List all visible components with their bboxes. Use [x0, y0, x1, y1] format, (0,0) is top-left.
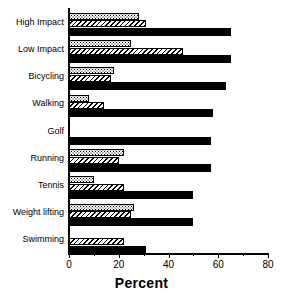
plot-area	[69, 8, 268, 253]
y-axis-label-weight-lifting: Weight lifting	[0, 207, 64, 217]
y-axis-label-bicycling: Bicycling	[0, 71, 64, 81]
x-tick-60	[218, 253, 219, 258]
y-axis-label-walking: Walking	[0, 98, 64, 108]
bar-low-impact-series-1	[69, 40, 131, 47]
x-axis-title: Percent	[0, 275, 283, 291]
bar-running-series-3	[69, 164, 211, 172]
bar-tennis-series-1	[69, 176, 94, 183]
y-axis-label-golf: Golf	[0, 126, 64, 136]
y-axis-label-swimming: Swimming	[0, 234, 64, 244]
bar-low-impact-series-2	[69, 48, 183, 55]
y-axis-label-low-impact: Low Impact	[0, 44, 64, 54]
bar-chart: High ImpactLow ImpactBicyclingWalkingGol…	[0, 0, 283, 301]
bar-high-impact-series-3	[69, 28, 231, 36]
bar-weight-lifting-series-2	[69, 211, 131, 218]
bar-swimming-series-3	[69, 246, 146, 254]
bar-tennis-series-3	[69, 191, 193, 199]
x-tick-80	[268, 253, 269, 258]
bar-bicycling-series-3	[69, 82, 226, 90]
y-axis-label-running: Running	[0, 153, 64, 163]
bar-walking-series-2	[69, 102, 104, 109]
y-axis-label-high-impact: High Impact	[0, 17, 64, 27]
x-tick-label-0: 0	[54, 259, 84, 271]
y-axis-tick-labels: High ImpactLow ImpactBicyclingWalkingGol…	[0, 8, 64, 253]
x-tick-minor-50	[193, 253, 194, 256]
bar-running-series-2	[69, 157, 119, 164]
bar-tennis-series-2	[69, 184, 124, 191]
x-tick-label-80: 80	[253, 259, 283, 271]
x-tick-minor-10	[94, 253, 95, 256]
x-tick-label-60: 60	[203, 259, 233, 271]
x-tick-20	[119, 253, 120, 258]
x-tick-label-20: 20	[104, 259, 134, 271]
bar-high-impact-series-1	[69, 13, 139, 20]
bar-weight-lifting-series-1	[69, 204, 134, 211]
bar-bicycling-series-1	[69, 67, 114, 74]
bar-high-impact-series-2	[69, 20, 146, 27]
bar-golf-series-3	[69, 137, 211, 145]
bar-swimming-series-2	[69, 238, 124, 245]
bar-running-series-1	[69, 149, 124, 156]
bar-walking-series-3	[69, 109, 213, 117]
x-tick-40	[169, 253, 170, 258]
bar-walking-series-1	[69, 95, 89, 102]
bar-bicycling-series-2	[69, 75, 111, 82]
x-tick-minor-70	[243, 253, 244, 256]
x-tick-minor-30	[144, 253, 145, 256]
bar-low-impact-series-3	[69, 55, 231, 63]
bar-weight-lifting-series-3	[69, 218, 193, 226]
x-tick-0	[69, 253, 70, 258]
y-axis-label-tennis: Tennis	[0, 180, 64, 190]
x-tick-label-40: 40	[154, 259, 184, 271]
